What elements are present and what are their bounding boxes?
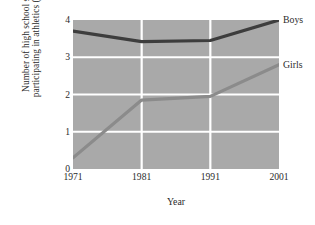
chart-figure: Number of high school students participa… bbox=[0, 0, 315, 225]
x-tick-label-1991: 1991 bbox=[187, 172, 233, 182]
plot-svg bbox=[73, 20, 279, 169]
y-tick-label-1: 1 bbox=[54, 127, 70, 137]
x-tick-label-1971: 1971 bbox=[50, 172, 96, 182]
plot-area bbox=[73, 20, 279, 169]
x-axis-label: Year bbox=[72, 196, 280, 207]
y-axis-label: Number of high school students participa… bbox=[16, 0, 46, 107]
y-tick-label-4: 4 bbox=[54, 15, 70, 25]
series-line-girls bbox=[73, 65, 279, 158]
series-label-girls: Girls bbox=[283, 60, 303, 70]
y-tick-label-3: 3 bbox=[54, 52, 70, 62]
gridlines-horizontal bbox=[73, 57, 279, 132]
y-axis-ticks: 4 3 2 1 0 bbox=[54, 0, 70, 225]
x-tick-label-1981: 1981 bbox=[119, 172, 165, 182]
y-tick-label-2: 2 bbox=[54, 90, 70, 100]
x-tick-label-2001: 2001 bbox=[256, 172, 302, 182]
series-line-boys bbox=[73, 20, 279, 42]
series-label-boys: Boys bbox=[283, 15, 303, 25]
x-axis-ticks: 1971 1981 1991 2001 bbox=[0, 172, 315, 186]
y-axis-label-line-2: participating in athletics (millions) bbox=[31, 0, 41, 97]
y-axis-label-line-1: Number of high school students bbox=[21, 0, 31, 92]
